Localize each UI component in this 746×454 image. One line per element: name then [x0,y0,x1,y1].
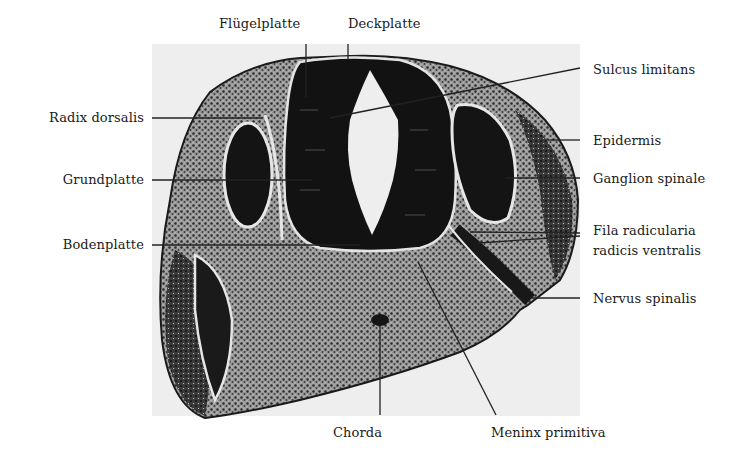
label-sulcus-limitans: Sulcus limitans [593,62,695,77]
label-deckplatte: Deckplatte [348,16,421,31]
label-radicis-ventralis: radicis ventralis [593,243,701,258]
label-epidermis: Epidermis [593,133,661,148]
label-radix-dorsalis: Radix dorsalis [49,110,144,125]
chorda-dorsalis [371,314,389,326]
label-fila-radicularia: Fila radicularia [593,223,696,238]
label-chorda: Chorda [333,425,382,440]
label-fluegelplatte: Flügelplatte [219,16,300,31]
anatomy-figure: Flügelplatte Deckplatte Radix dorsalis G… [0,0,746,454]
label-bodenplatte: Bodenplatte [63,237,144,252]
label-grundplatte: Grundplatte [63,172,144,187]
neural-tube [284,57,456,251]
label-ganglion-spinale: Ganglion spinale [593,171,705,186]
label-nervus-spinalis: Nervus spinalis [593,291,697,306]
label-meninx-primitiva: Meninx primitiva [491,425,606,440]
